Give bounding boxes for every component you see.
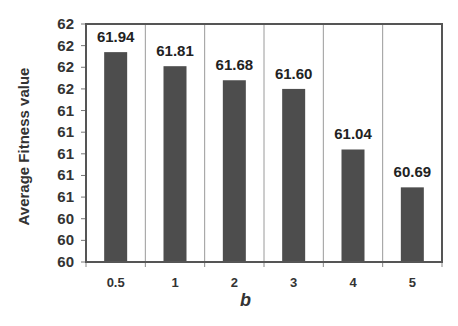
y-tick-label: 60 [57,253,74,270]
y-tick-label: 61 [57,123,74,140]
data-label: 61.81 [156,42,194,59]
y-tick-label: 62 [57,80,74,97]
bar [342,149,365,262]
x-tick-label: 5 [409,275,416,290]
y-axis-label: Average Fitness value [15,62,32,232]
data-label: 61.68 [216,56,254,73]
data-label: 61.94 [97,28,135,45]
bar [223,80,246,262]
y-tick-label: 60 [57,210,74,227]
bar [164,66,187,262]
y-tick-label: 61 [57,102,74,119]
x-tick-label: 2 [231,275,238,290]
y-tick-label: 61 [57,145,74,162]
bar-chart: 60606061616161616262626261.940.561.81161… [0,0,458,326]
y-tick-label: 62 [57,37,74,54]
chart-plot: 60606061616161616262626261.940.561.81161… [0,0,458,326]
x-tick-label: 4 [349,275,357,290]
bar [401,187,424,262]
bar [282,89,305,262]
bar [104,52,127,262]
x-tick-label: 3 [290,275,297,290]
data-label: 61.04 [334,125,372,142]
x-tick-label: 0.5 [107,275,125,290]
data-label: 60.69 [394,163,432,180]
x-tick-label: 1 [171,275,178,290]
x-axis-label: b [240,290,251,311]
y-tick-label: 61 [57,166,74,183]
y-tick-label: 62 [57,58,74,75]
y-tick-label: 62 [57,15,74,32]
y-tick-label: 60 [57,231,74,248]
y-tick-label: 61 [57,188,74,205]
data-label: 61.60 [275,65,313,82]
